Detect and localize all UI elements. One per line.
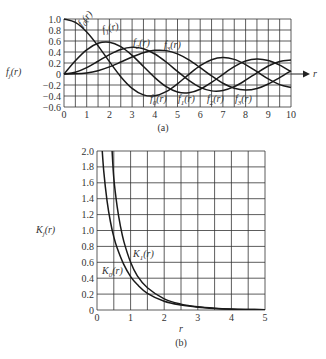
x-tick-label: 7: [220, 109, 225, 120]
chart-b-tick-labels: 0123452.01.81.61.41.21.00.80.60.40.20: [82, 146, 268, 324]
chart-b-caption: (b): [175, 337, 187, 349]
x-tick-label: 4: [152, 109, 157, 120]
y-tick-label: 1.2: [82, 209, 95, 220]
curve-label-f3: f3(r): [164, 39, 182, 53]
y-tick-label: 1.0: [49, 14, 62, 25]
x-tick-label: 5: [263, 312, 268, 323]
x-tick-label: 0: [95, 312, 100, 323]
y-tick-label: 0.6: [82, 257, 95, 268]
y-tick-label: 0.2: [49, 58, 62, 69]
curve-label-f0: f0(r): [150, 93, 168, 107]
chart-a-ylabel: fj(r): [6, 66, 22, 80]
y-tick-label: 0.8: [49, 25, 62, 36]
y-tick-label: 2.0: [82, 146, 95, 157]
chart-b-curves: [101, 137, 265, 309]
chart-b-ylabel: Kj(r): [35, 224, 56, 238]
y-tick-label: 0: [56, 69, 61, 80]
x-tick-label: 1: [128, 312, 133, 323]
y-tick-label: 0.6: [49, 36, 62, 47]
x-tick-label: 1: [84, 109, 89, 120]
y-tick-label: 0.4: [82, 273, 95, 284]
y-tick-label: −0.2: [43, 80, 61, 91]
x-tick-label: 2: [107, 109, 112, 120]
x-tick-label: 6: [198, 109, 203, 120]
curve-label-f1: f1(r): [101, 20, 121, 38]
y-tick-label: −0.6: [43, 102, 61, 113]
curve-label-f1: f1(r): [178, 93, 196, 107]
y-tick-label: 1.6: [82, 177, 95, 188]
y-tick-label: 1.4: [82, 193, 95, 204]
chart-a-r-axis: r: [291, 68, 317, 79]
arrow-right-icon: [303, 71, 310, 78]
figure: 0123456789101.00.80.60.40.20−0.2−0.4−0.6…: [0, 0, 326, 359]
y-tick-label: 1.8: [82, 161, 95, 172]
x-tick-label: 3: [195, 312, 200, 323]
chart-a-caption: (a): [157, 122, 168, 134]
curve-label-f2: f2(r): [207, 93, 225, 107]
chart-a-xlabel: r: [313, 68, 317, 79]
y-tick-label: −0.4: [43, 91, 61, 102]
x-tick-label: 5: [175, 109, 180, 120]
y-tick-label: 0.2: [82, 289, 95, 300]
x-tick-label: 0: [62, 109, 67, 120]
x-tick-label: 8: [243, 109, 248, 120]
chart-b-xlabel: r: [179, 323, 183, 334]
y-tick-label: 0.4: [49, 47, 62, 58]
x-tick-label: 2: [162, 312, 167, 323]
chart-a-tick-labels: 0123456789101.00.80.60.40.20−0.2−0.4−0.6: [43, 14, 296, 121]
y-tick-label: 1.0: [82, 225, 95, 236]
x-tick-label: 4: [229, 312, 234, 323]
y-tick-label: 0: [89, 305, 94, 316]
curve-k0r: [101, 137, 265, 309]
chart-a-bessel-functions: 0123456789101.00.80.60.40.20−0.2−0.4−0.6…: [6, 8, 317, 134]
curve-label-f3: f3(r): [235, 93, 253, 107]
curve-label-K1: K1(r): [132, 248, 154, 262]
y-tick-label: 0.8: [82, 241, 95, 252]
chart-b-modified-bessel: 0123452.01.81.61.41.21.00.80.60.40.20 Kj…: [35, 137, 268, 349]
chart-b-grid: [97, 151, 265, 310]
x-tick-label: 3: [130, 109, 135, 120]
curve-label-K0: K0(r): [101, 265, 123, 279]
x-tick-label: 10: [286, 109, 296, 120]
x-tick-label: 9: [266, 109, 271, 120]
